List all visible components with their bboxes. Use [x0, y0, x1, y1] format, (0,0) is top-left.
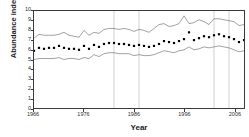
x-axis-title: Year	[33, 123, 245, 132]
data-point	[213, 34, 215, 36]
data-point	[98, 46, 100, 48]
data-point	[103, 43, 105, 45]
y-tick-label: 10	[18, 7, 31, 13]
x-tick-label: 1976	[77, 111, 89, 117]
x-tick-label: 1966	[27, 111, 39, 117]
data-point	[158, 43, 160, 45]
data-point	[208, 36, 210, 38]
y-tick-label: 9	[18, 17, 31, 23]
data-point	[34, 50, 35, 52]
data-point	[48, 47, 50, 49]
data-point	[188, 31, 190, 33]
x-tick-mark	[134, 109, 135, 112]
x-tick-mark	[184, 109, 185, 112]
y-tick-mark	[31, 99, 34, 100]
chart-figure: Abundance index 012345678910 19661976198…	[0, 0, 249, 137]
y-tick-mark	[31, 40, 34, 41]
data-point	[133, 45, 135, 47]
data-point	[108, 42, 110, 44]
y-tick-label: 4	[18, 66, 31, 72]
data-point	[138, 44, 140, 46]
y-tick-mark	[31, 50, 34, 51]
data-point	[243, 39, 244, 41]
vertical-gridlines	[114, 11, 229, 108]
y-tick-label: 2	[18, 86, 31, 92]
data-point	[218, 33, 220, 35]
y-tick-label: 3	[18, 76, 31, 82]
x-tick-label: 1986	[128, 111, 140, 117]
data-point	[203, 35, 205, 37]
x-tick-label: 2006	[229, 111, 241, 117]
y-tick-label: 5	[18, 57, 31, 63]
x-axis-tick-labels: 19661976198619962006	[0, 111, 249, 121]
data-point	[43, 48, 45, 50]
data-point	[113, 42, 115, 44]
data-point	[178, 40, 180, 42]
y-tick-label: 1	[18, 96, 31, 102]
data-point	[143, 45, 145, 47]
data-point	[63, 47, 65, 49]
y-tick-mark	[31, 10, 34, 11]
data-point	[53, 47, 55, 49]
data-point	[223, 35, 225, 37]
y-tick-label: 6	[18, 47, 31, 53]
data-point	[238, 41, 240, 43]
y-tick-label: 8	[18, 27, 31, 33]
x-tick-mark	[33, 109, 34, 112]
data-point	[168, 41, 170, 43]
data-point	[228, 36, 230, 38]
y-tick-mark	[31, 30, 34, 31]
data-point	[163, 40, 165, 42]
y-tick-mark	[31, 20, 34, 21]
data-point	[183, 38, 185, 40]
plot-area	[33, 10, 245, 109]
y-tick-label: 7	[18, 37, 31, 43]
data-point	[58, 45, 60, 47]
data-point	[173, 42, 175, 44]
data-point	[128, 44, 130, 46]
data-point	[198, 37, 200, 39]
y-tick-mark	[31, 69, 34, 70]
plot-svg	[34, 11, 244, 108]
data-point	[123, 43, 125, 45]
data-point	[153, 45, 155, 47]
data-point	[88, 48, 90, 50]
data-point	[148, 46, 150, 48]
data-point	[83, 45, 85, 47]
y-tick-mark	[31, 89, 34, 90]
data-point	[118, 43, 120, 45]
y-tick-mark	[31, 60, 34, 61]
data-point	[68, 48, 70, 50]
data-point	[73, 48, 75, 50]
data-point	[233, 38, 235, 40]
data-point	[193, 39, 195, 41]
data-point	[78, 49, 80, 51]
y-tick-mark	[31, 79, 34, 80]
data-point	[38, 47, 40, 49]
x-tick-label: 1996	[178, 111, 190, 117]
data-point	[93, 44, 95, 46]
x-tick-mark	[83, 109, 84, 112]
x-tick-mark	[235, 109, 236, 112]
